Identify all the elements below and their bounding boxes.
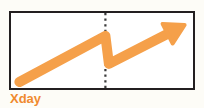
x-axis-label: Xday (10, 92, 41, 105)
trend-arrowhead-icon (163, 24, 185, 44)
figure-container: Xday (0, 0, 204, 108)
trend-line-chart (11, 13, 193, 88)
trend-arrow (19, 24, 184, 82)
trend-line-stroke (19, 34, 166, 82)
chart-frame (9, 11, 195, 90)
